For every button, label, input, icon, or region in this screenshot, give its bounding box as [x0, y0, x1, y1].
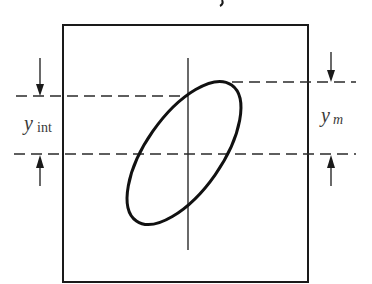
arrow-up-icon [327, 155, 335, 168]
ellipse-diagram: y int y m [0, 0, 372, 284]
svg-text:int: int [37, 120, 52, 135]
label-y-m: y m [319, 104, 343, 127]
arrow-down-icon [36, 84, 44, 96]
label-y-int: y int [22, 112, 52, 135]
arrow-down-icon [327, 70, 335, 82]
svg-text:y: y [22, 112, 33, 135]
arrow-up-icon [36, 155, 44, 168]
svg-text:m: m [333, 112, 343, 127]
ellipse-trace [105, 63, 262, 243]
cropped-top-glyph [220, 0, 223, 6]
svg-text:y: y [319, 104, 330, 127]
